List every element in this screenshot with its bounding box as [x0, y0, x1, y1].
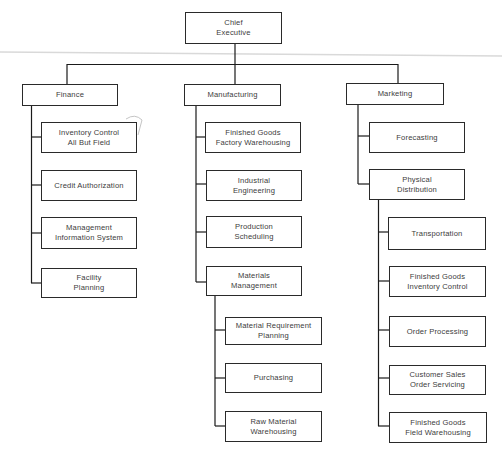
node-label: Forecasting: [396, 133, 437, 143]
scan-artifact-line: [0, 52, 502, 56]
node-label: Transportation: [412, 229, 463, 239]
node-label: Industrial Engineering: [233, 176, 275, 195]
node-label: Finished Goods Field Warehousing: [405, 418, 471, 437]
node-label: Chief Executive: [216, 18, 250, 37]
node-label: Purchasing: [254, 373, 294, 383]
node-materials-management: Materials Management: [206, 266, 302, 296]
node-label: Order Processing: [407, 327, 469, 337]
node-finished-goods-inventory-control: Finished Goods Inventory Control: [389, 266, 486, 297]
node-label: Management Information System: [55, 223, 123, 242]
node-production-scheduling: Production Scheduling: [206, 216, 302, 248]
node-label: Finance: [56, 90, 84, 100]
node-forecasting: Forecasting: [369, 122, 465, 153]
node-label: Inventory Control All But Field: [59, 128, 119, 147]
node-finished-goods-field-warehousing: Finished Goods Field Warehousing: [389, 412, 487, 443]
node-facility-planning: Facility Planning: [41, 268, 137, 298]
node-material-requirement-planning: Material Requirement Planning: [225, 317, 322, 345]
node-label: Facility Planning: [74, 273, 105, 292]
node-label: Physical Distribution: [397, 175, 437, 194]
node-chief-executive: Chief Executive: [185, 12, 282, 44]
node-label: Raw Material Warehousing: [250, 417, 296, 436]
node-label: Marketing: [378, 89, 413, 99]
node-label: Production Scheduling: [234, 222, 273, 241]
node-industrial-engineering: Industrial Engineering: [206, 170, 302, 201]
node-finance: Finance: [22, 84, 118, 106]
node-order-processing: Order Processing: [389, 316, 486, 347]
node-customer-sales-order-servicing: Customer Sales Order Servicing: [389, 365, 486, 395]
node-label: Manufacturing: [207, 90, 257, 100]
node-label: Customer Sales Order Servicing: [409, 370, 465, 389]
node-manufacturing: Manufacturing: [184, 84, 281, 106]
node-purchasing: Purchasing: [225, 363, 322, 393]
node-label: Material Requirement Planning: [236, 321, 312, 340]
org-chart: Chief Executive Finance Manufacturing Ma…: [0, 0, 502, 457]
node-finished-goods-factory-warehousing: Finished Goods Factory Warehousing: [205, 122, 301, 153]
node-credit-authorization: Credit Authorization: [41, 170, 137, 201]
node-label: Materials Management: [231, 271, 277, 290]
node-raw-material-warehousing: Raw Material Warehousing: [225, 411, 322, 442]
node-physical-distribution: Physical Distribution: [369, 169, 465, 200]
node-transportation: Transportation: [388, 217, 486, 250]
node-management-information-system: Management Information System: [41, 217, 137, 249]
node-marketing: Marketing: [346, 83, 444, 105]
node-label: Finished Goods Inventory Control: [407, 272, 467, 291]
node-inventory-control-all-but-field: Inventory Control All But Field: [41, 122, 137, 153]
node-label: Credit Authorization: [54, 181, 123, 191]
node-label: Finished Goods Factory Warehousing: [216, 128, 291, 147]
